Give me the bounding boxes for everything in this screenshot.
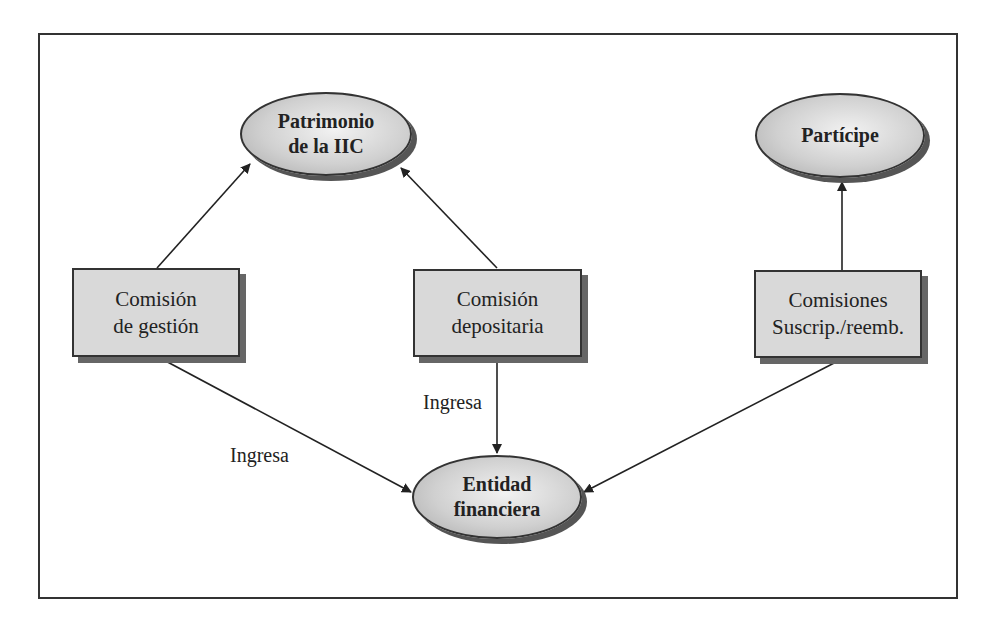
node-patrimonio-iic: Patrimonio de la IIC [240,92,412,176]
node-label: de la IIC [278,134,375,159]
node-participe: Partícipe [755,93,925,178]
node-label: Comisión [113,286,199,313]
node-entidad-financiera: Entidad financiera [412,455,582,539]
edge-label-ingresa-depositaria: Ingresa [423,391,482,414]
arrow-suscrip-to-entidad [584,360,840,492]
arrow-gestion-to-patrimonio [157,164,250,268]
node-comision-depositaria: Comisión depositaria [413,269,582,357]
node-label: Suscrip./reemb. [772,314,904,341]
node-label: Comisiones [772,287,904,314]
node-label: financiera [454,497,541,522]
node-comisiones-suscrip-reemb: Comisiones Suscrip./reemb. [754,270,922,358]
node-label: depositaria [451,313,543,340]
node-comision-gestion: Comisión de gestión [72,268,240,357]
node-label: Patrimonio [278,109,375,134]
node-label: Comisión [451,286,543,313]
node-label: de gestión [113,313,199,340]
edge-label-ingresa-gestion: Ingresa [230,444,289,467]
arrow-depositaria-to-patrimonio [401,168,497,268]
arrow-gestion-to-entidad [160,358,411,492]
node-label: Entidad [454,472,541,497]
node-label: Partícipe [801,123,879,148]
